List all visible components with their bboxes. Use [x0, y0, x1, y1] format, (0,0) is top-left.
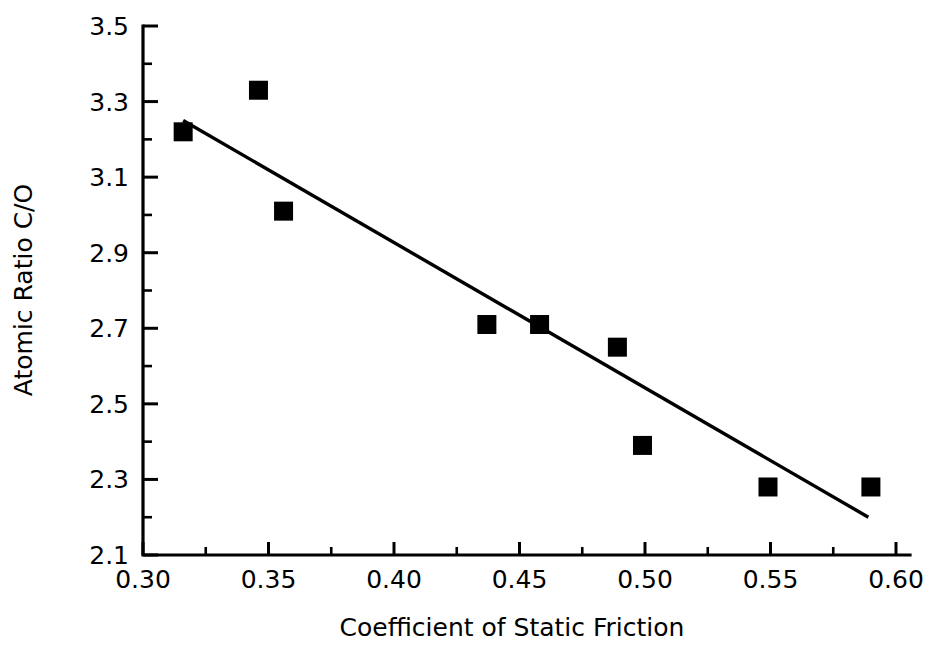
- x-axis-title: Coefficient of Static Friction: [340, 613, 685, 642]
- data-point-marker: [249, 81, 268, 100]
- y-axis-title: Atomic Ratio C/O: [9, 184, 38, 396]
- trend-line: [183, 120, 868, 517]
- x-tick-label: 0.40: [366, 565, 422, 594]
- scatter-plot-svg: 0.300.350.400.450.500.550.60 2.12.32.52.…: [0, 0, 944, 649]
- y-tick-label: 2.5: [89, 390, 129, 419]
- x-axis-ticks: [143, 542, 896, 555]
- x-axis-tick-labels: 0.300.350.400.450.500.550.60: [115, 565, 924, 594]
- data-point-marker: [608, 338, 627, 357]
- y-tick-label: 2.1: [89, 541, 129, 570]
- trend-line-group: [183, 120, 868, 517]
- y-tick-label: 3.1: [89, 163, 129, 192]
- data-point-marker: [861, 477, 880, 496]
- y-tick-label: 3.5: [89, 12, 129, 41]
- y-axis-tick-labels: 2.12.32.52.72.93.13.33.5: [89, 12, 129, 570]
- y-tick-label: 2.9: [89, 239, 129, 268]
- data-point-marker: [758, 477, 777, 496]
- data-point-marker: [274, 202, 293, 221]
- x-tick-label: 0.55: [743, 565, 799, 594]
- chart-figure: 0.300.350.400.450.500.550.60 2.12.32.52.…: [0, 0, 944, 649]
- x-tick-label: 0.35: [241, 565, 297, 594]
- data-markers: [174, 81, 881, 497]
- data-point-marker: [477, 315, 496, 334]
- y-axis-ticks: [143, 26, 158, 555]
- x-tick-label: 0.45: [492, 565, 548, 594]
- y-tick-label: 2.3: [89, 465, 129, 494]
- data-point-marker: [633, 436, 652, 455]
- x-tick-label: 0.50: [617, 565, 673, 594]
- y-tick-label: 3.3: [89, 88, 129, 117]
- y-tick-label: 2.7: [89, 314, 129, 343]
- data-point-marker: [530, 315, 549, 334]
- x-tick-label: 0.60: [868, 565, 924, 594]
- data-point-marker: [174, 122, 193, 141]
